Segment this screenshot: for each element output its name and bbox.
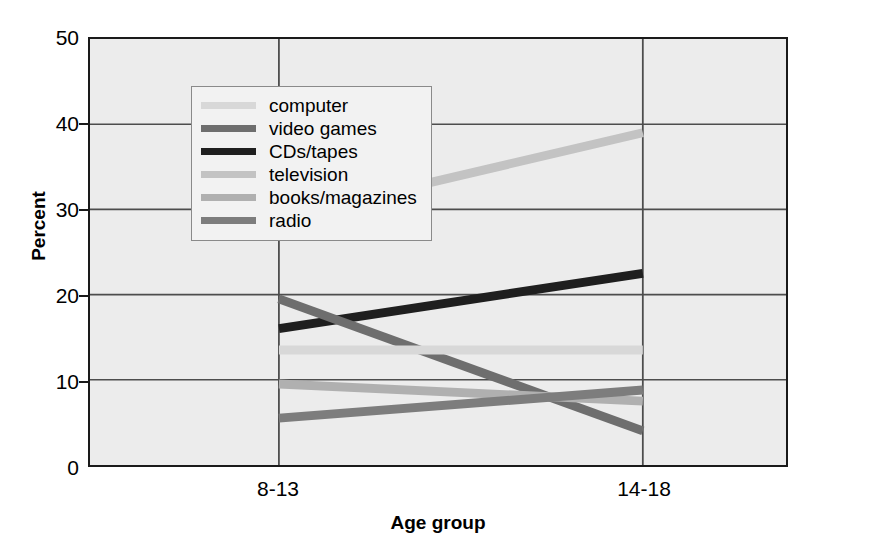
x-tick-label-14-18: 14-18 — [584, 478, 704, 499]
legend-item-computer: computer — [201, 94, 417, 117]
y-tick-label-40: 40 — [19, 113, 79, 134]
legend-item-cds-tapes: CDs/tapes — [201, 140, 417, 163]
y-tick-label-0: 0 — [19, 457, 79, 478]
legend-label-video-games: video games — [269, 119, 377, 138]
x-axis-title: Age group — [88, 512, 788, 534]
legend-swatch-video-games — [201, 125, 256, 132]
legend-swatch-television — [201, 171, 256, 178]
chart-figure: 50 40 30 20 10 0 Percent — [0, 0, 881, 546]
legend-item-books-magazines: books/magazines — [201, 186, 417, 209]
legend-label-radio: radio — [269, 211, 311, 230]
legend-swatch-computer — [201, 102, 256, 109]
legend-label-cds-tapes: CDs/tapes — [269, 142, 358, 161]
x-tick-label-8-13: 8-13 — [218, 478, 338, 499]
legend-label-computer: computer — [269, 96, 348, 115]
legend-item-video-games: video games — [201, 117, 417, 140]
legend-item-radio: radio — [201, 209, 417, 232]
legend-swatch-radio — [201, 217, 256, 224]
y-tick-label-50: 50 — [19, 27, 79, 48]
y-axis-title: Percent — [28, 151, 50, 301]
chart-legend: computer video games CDs/tapes televisio… — [191, 86, 432, 241]
legend-label-books-magazines: books/magazines — [269, 188, 417, 207]
y-tick-label-10: 10 — [19, 371, 79, 392]
legend-swatch-books-magazines — [201, 194, 256, 201]
plot-area: computer video games CDs/tapes televisio… — [88, 37, 788, 467]
legend-swatch-cds-tapes — [201, 148, 256, 155]
legend-item-television: television — [201, 163, 417, 186]
legend-label-television: television — [269, 165, 348, 184]
